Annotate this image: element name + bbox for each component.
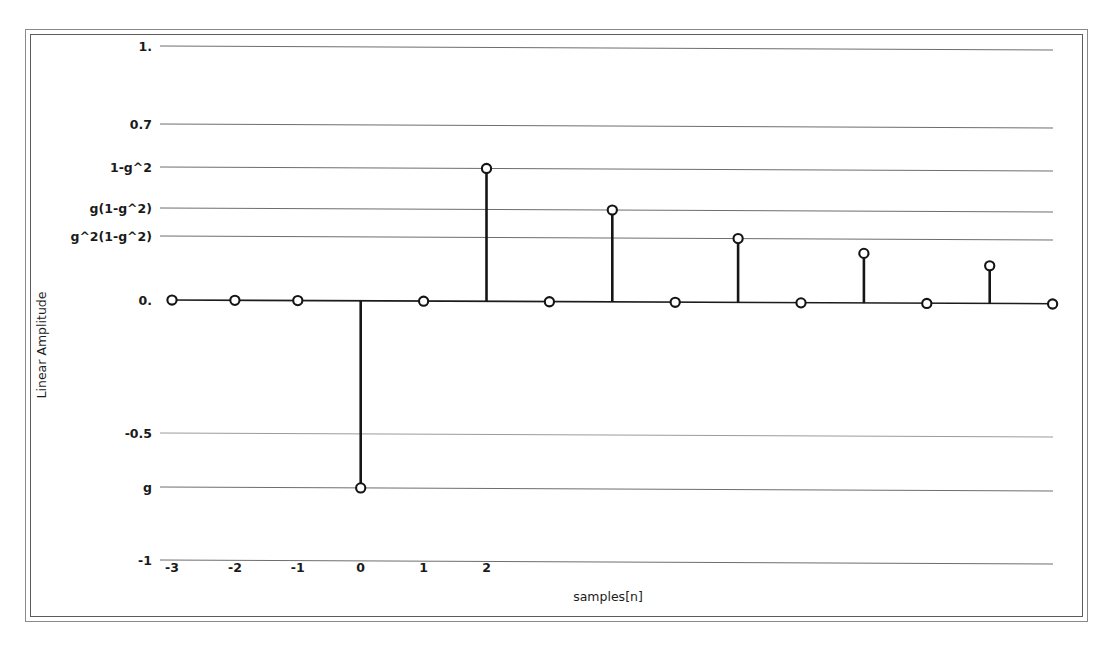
plot-canvas: 1.0.71-g^2g(1-g^2)g^2(1-g^2)0.-0.5g-1 -3… [0, 0, 1110, 648]
data-point-n5 [671, 298, 680, 307]
y-tick-label: g(1-g^2) [90, 201, 152, 216]
scanned-page: 1.0.71-g^2g(1-g^2)g^2(1-g^2)0.-0.5g-1 -3… [0, 0, 1110, 648]
data-point-n3 [545, 297, 554, 306]
data-point-n10 [985, 261, 994, 270]
x-axis-title: samples[n] [573, 589, 643, 604]
x-tick-label: 0 [356, 560, 365, 575]
y-tick-label: g [143, 480, 152, 495]
gridline-g [160, 487, 1053, 491]
data-point-n-1 [293, 296, 302, 305]
y-axis-title: Linear Amplitude [34, 291, 49, 398]
gridlines-group [160, 46, 1053, 564]
y-tick-label: 1. [139, 39, 152, 54]
x-tick-label: 2 [482, 560, 491, 575]
gridline-g(1-g^2) [160, 208, 1053, 212]
data-point-n7 [796, 298, 805, 307]
x-tick-label: -3 [165, 560, 179, 575]
y-tick-label: g^2(1-g^2) [70, 229, 152, 244]
x-tick-label: -1 [291, 560, 305, 575]
data-point-n9 [922, 299, 931, 308]
data-point-n4 [608, 205, 617, 214]
gridline-1. [160, 46, 1053, 50]
data-point-n8 [859, 249, 868, 258]
gridline-0.7 [160, 124, 1053, 128]
stem-plot-figure: 1.0.71-g^2g(1-g^2)g^2(1-g^2)0.-0.5g-1 -3… [0, 0, 1110, 648]
markers-group [167, 164, 1057, 493]
y-tick-label: 1-g^2 [110, 160, 152, 175]
y-tick-label: -0.5 [125, 426, 152, 441]
gridline--0.5 [160, 433, 1053, 437]
data-point-n2 [482, 164, 491, 173]
data-point-n0 [356, 483, 365, 492]
x-tick-labels-group: -3-2-1012 [165, 560, 491, 575]
gridline-1-g^2 [160, 167, 1053, 171]
x-tick-label: -2 [228, 560, 242, 575]
data-point-n1 [419, 297, 428, 306]
y-tick-label: 0.7 [130, 117, 152, 132]
data-point-n-2 [230, 296, 239, 305]
y-tick-labels-group: 1.0.71-g^2g(1-g^2)g^2(1-g^2)0.-0.5g-1 [70, 39, 152, 568]
data-point-n11 [1048, 299, 1057, 308]
stems-group [168, 168, 1055, 487]
y-tick-label: -1 [138, 553, 152, 568]
data-point-n-3 [167, 295, 176, 304]
data-point-n6 [734, 234, 743, 243]
x-tick-label: 1 [419, 560, 428, 575]
y-tick-label: 0. [139, 293, 152, 308]
gridline-g^2(1-g^2) [160, 236, 1053, 240]
